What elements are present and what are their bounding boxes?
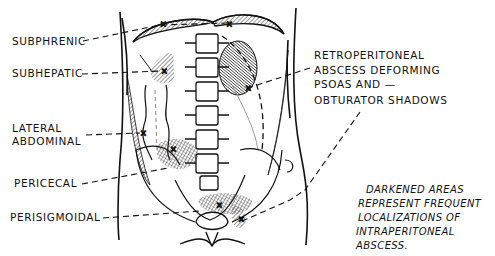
label-pericecal: PERICECAL	[14, 177, 77, 190]
note-line-5: ABSCESS.	[356, 239, 408, 254]
svg-text:×: ×	[216, 201, 223, 210]
note-line-4: INTRAPERITONEAL	[356, 225, 455, 240]
label-abscess-deforming: ABSCESS DEFORMING	[314, 64, 440, 77]
label-psoas-and: PSOAS AND —	[314, 78, 396, 91]
label-subhepatic: SUBHEPATIC	[12, 67, 83, 80]
svg-text:×: ×	[238, 215, 245, 224]
svg-text:×: ×	[245, 84, 252, 93]
pericecal-region	[157, 139, 198, 169]
label-retroperitoneal: RETROPERITONEAL	[314, 49, 424, 62]
svg-text:×: ×	[170, 145, 177, 154]
note-line-3: LOCALIZATIONS OF	[358, 211, 460, 226]
note-line-2: REPRESENT FREQUENT	[358, 197, 481, 212]
svg-text:×: ×	[140, 129, 147, 138]
diagram-canvas: × × × × × × × × SUBPHRENIC SUBHEPATIC LA…	[0, 0, 495, 256]
label-obturator-shadows: OBTURATOR SHADOWS	[314, 94, 447, 107]
label-perisigmoidal: PERISIGMOIDAL	[10, 211, 100, 224]
note-line-1: DARKENED AREAS	[366, 183, 464, 198]
label-lateral: LATERAL	[12, 122, 62, 135]
perisigmoidal-region	[198, 193, 252, 214]
label-subphrenic: SUBPHRENIC	[12, 35, 86, 48]
label-abdominal: ABDOMINAL	[12, 135, 81, 148]
svg-text:×: ×	[226, 20, 233, 29]
